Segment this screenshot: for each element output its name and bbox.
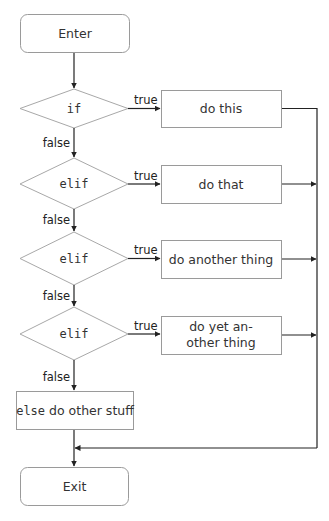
- edge-if-true-label: true: [134, 93, 158, 107]
- edge-elif-2-false-label: false: [43, 289, 70, 303]
- decision-elif-3-label: elif: [60, 327, 89, 341]
- else-text: do other stuff: [45, 403, 134, 418]
- action-do-this-label: do this: [200, 101, 242, 116]
- flowchart: Enter if true false do this elif true fa…: [0, 0, 329, 521]
- start-node: Enter: [21, 15, 130, 53]
- decision-elif-2: elif: [20, 232, 128, 285]
- action-do-another-thing: do another thing: [162, 241, 282, 279]
- edge-if-false-label: false: [43, 136, 70, 150]
- decision-elif-3: elif: [20, 307, 128, 360]
- else-node: else do other stuff: [16, 392, 134, 430]
- edge-elif-1-false-label: false: [43, 213, 70, 227]
- edge-elif-2-true-label: true: [134, 243, 158, 257]
- decision-elif-1-label: elif: [60, 177, 89, 191]
- action-do-this: do this: [162, 91, 282, 128]
- action-do-yet-another-line2: other thing: [186, 335, 255, 350]
- else-keyword: else: [16, 404, 45, 418]
- decision-elif-1: elif: [20, 158, 128, 209]
- edge-elif-3-false-label: false: [43, 370, 70, 384]
- end-label: Exit: [63, 479, 87, 494]
- action-do-that: do that: [162, 166, 282, 204]
- decision-if: if: [20, 89, 128, 128]
- action-do-yet-another-thing: do yet an- other thing: [162, 317, 282, 355]
- decision-elif-2-label: elif: [60, 252, 89, 266]
- action-do-yet-another-line1: do yet an-: [189, 319, 253, 334]
- edge-elif-3-true-label: true: [134, 319, 158, 333]
- end-node: Exit: [21, 468, 129, 506]
- edge-elif-1-true-label: true: [134, 169, 158, 183]
- action-do-another-thing-label: do another thing: [169, 252, 274, 267]
- start-label: Enter: [58, 26, 92, 41]
- edge-do-this-merge: [282, 109, 317, 449]
- else-label: else do other stuff: [16, 403, 134, 418]
- decision-if-label: if: [67, 102, 81, 116]
- action-do-that-label: do that: [199, 177, 244, 192]
